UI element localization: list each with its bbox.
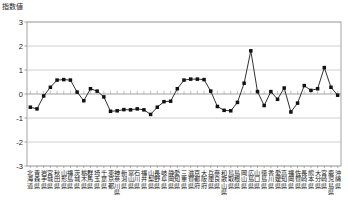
data-point-marker — [249, 49, 253, 53]
data-point-marker — [209, 89, 213, 93]
data-point-marker — [216, 105, 220, 109]
y-tick-label: -1 — [16, 114, 23, 123]
y-tick-label: -2 — [16, 138, 23, 147]
data-point-marker — [323, 66, 327, 70]
data-point-marker — [269, 90, 273, 94]
data-point-marker — [122, 108, 126, 112]
data-point-marker — [156, 105, 160, 109]
data-point-marker — [222, 109, 226, 113]
x-tick-label: 沖縄県 — [334, 170, 341, 189]
data-point-marker — [62, 78, 66, 82]
data-point-marker — [242, 81, 246, 85]
data-point-marker — [149, 113, 153, 117]
y-tick-label: 3 — [19, 18, 23, 27]
data-point-marker — [309, 89, 313, 93]
data-point-marker — [169, 99, 173, 103]
data-point-marker — [196, 77, 200, 81]
y-tick-label: 0 — [19, 90, 23, 99]
data-point-marker — [109, 110, 113, 114]
chart-container: 指数値 3210-1-2-3 北海道青森県岩手県宮城県秋田県山形県福島県茨城県栃… — [0, 0, 348, 220]
data-point-marker — [42, 94, 46, 98]
data-point-marker — [303, 84, 307, 88]
y-tick-label: -3 — [16, 162, 23, 171]
data-point-marker — [35, 107, 39, 111]
data-point-marker — [289, 110, 293, 114]
data-point-marker — [189, 77, 193, 81]
data-point-marker — [336, 93, 340, 97]
data-point-marker — [69, 78, 73, 82]
data-point-marker — [329, 86, 333, 90]
data-point-marker — [55, 78, 59, 82]
data-point-marker — [115, 109, 119, 113]
data-point-marker — [229, 109, 233, 113]
data-point-marker — [142, 108, 146, 112]
y-tick-label: 1 — [19, 66, 23, 75]
data-point-marker — [102, 95, 106, 99]
data-point-marker — [282, 86, 286, 90]
data-point-marker — [29, 105, 33, 109]
data-point-marker — [316, 87, 320, 91]
data-point-marker — [162, 100, 166, 104]
data-point-marker — [182, 78, 186, 82]
data-point-marker — [135, 107, 139, 111]
data-point-marker — [89, 87, 93, 91]
data-point-marker — [276, 98, 280, 102]
data-point-marker — [49, 86, 53, 90]
data-point-marker — [95, 89, 99, 93]
data-point-marker — [236, 101, 240, 105]
data-point-marker — [262, 104, 266, 108]
y-tick-label: 2 — [19, 42, 23, 51]
data-point-marker — [202, 78, 206, 82]
data-point-marker — [256, 90, 259, 94]
data-point-marker — [75, 90, 79, 94]
data-point-marker — [296, 101, 300, 105]
data-point-marker — [82, 99, 86, 103]
data-point-marker — [129, 108, 133, 112]
data-point-marker — [176, 87, 180, 91]
